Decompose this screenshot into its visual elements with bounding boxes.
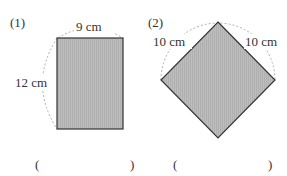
answer-open-paren: (: [173, 157, 177, 172]
height-label: 12 cm: [15, 75, 47, 90]
answer-close-paren: ): [130, 157, 134, 172]
problem-1-label: (1): [10, 15, 25, 30]
rectangle-shape: [57, 38, 123, 129]
answer-open-paren: (: [35, 157, 39, 172]
problem-1: (1) 9 cm 12 cm ( ): [10, 15, 134, 172]
problem-2-label: (2): [148, 15, 163, 30]
left-side-label: 10 cm: [153, 34, 185, 49]
width-label: 9 cm: [76, 19, 102, 34]
problem-2: (2) 10 cm 10 cm ( ): [148, 15, 286, 172]
answer-close-paren: ): [268, 157, 272, 172]
figure-canvas: (1) 9 cm 12 cm ( ) (2) 10 cm 10 cm ( ): [0, 0, 287, 176]
right-side-label: 10 cm: [245, 34, 277, 49]
